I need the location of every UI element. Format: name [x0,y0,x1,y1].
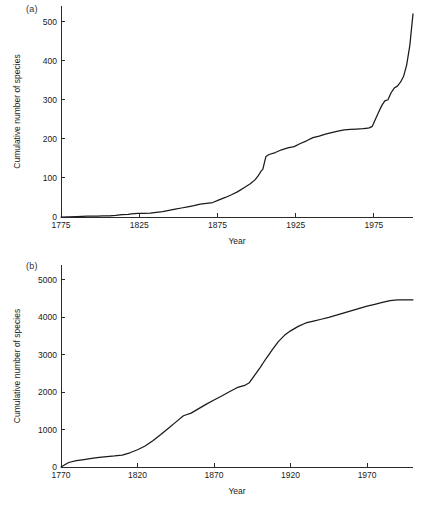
panel-b: (b) 010002000300040005000177018201870192… [0,255,424,509]
y-tick-label: 200 [43,134,57,144]
data-curve [61,300,413,467]
panel-b-plot: 0100020003000400050001770182018701920197… [0,255,424,509]
y-tick-label: 5000 [38,275,57,285]
x-tick-label: 1770 [52,470,71,480]
y-tick-label: 1000 [38,425,57,435]
x-tick-label: 1820 [128,470,147,480]
x-tick-label: 1870 [205,470,224,480]
y-axis-title: Cumulative number of species [12,309,22,423]
y-tick-label: 3000 [38,350,57,360]
x-tick-label: 1970 [358,470,377,480]
x-tick-label: 1875 [208,220,227,230]
data-curve [61,14,413,217]
y-tick-label: 4000 [38,312,57,322]
x-tick-label: 1775 [52,220,71,230]
y-axis-title: Cumulative number of species [12,54,22,168]
y-tick-label: 100 [43,173,57,183]
y-tick-label: 300 [43,95,57,105]
panel-a-plot: 010020030040050017751825187519251975Year… [0,0,424,255]
y-tick-label: 500 [43,17,57,27]
x-tick-label: 1920 [281,470,300,480]
panel-a: (a) 010020030040050017751825187519251975… [0,0,424,255]
x-tick-label: 1925 [286,220,305,230]
figure-container: (a) 010020030040050017751825187519251975… [0,0,424,509]
y-tick-label: 2000 [38,387,57,397]
x-axis-title: Year [228,236,245,246]
y-tick-label: 400 [43,56,57,66]
x-axis-title: Year [228,486,245,496]
x-tick-label: 1825 [130,220,149,230]
x-tick-label: 1975 [364,220,383,230]
